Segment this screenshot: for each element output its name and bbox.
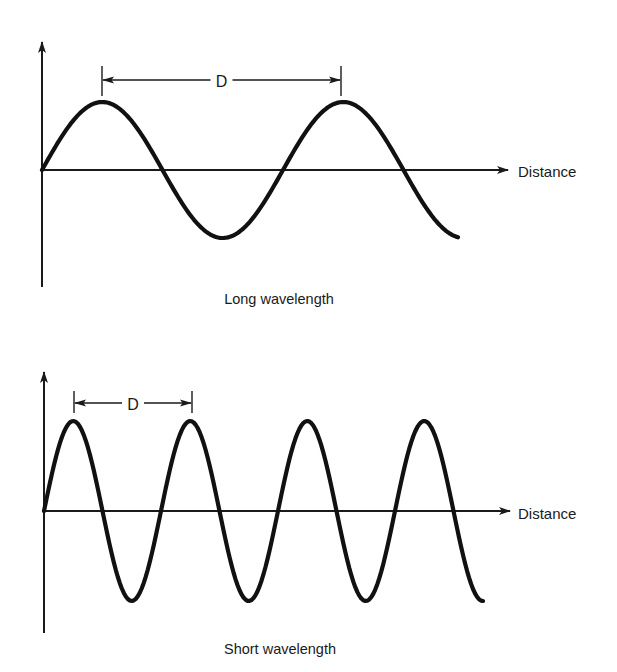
panel-caption: Short wavelength [224, 641, 336, 657]
panel-short-wavelength: D Distance Short wavelength [44, 372, 576, 657]
dimension-marker-d: D [102, 66, 341, 96]
dimension-label: D [216, 73, 228, 90]
x-axis-label: Distance [518, 163, 576, 180]
dimension-marker-d: D [74, 391, 192, 413]
panel-caption: Long wavelength [224, 291, 334, 307]
wavelength-diagram: D Distance Long wavelength D Distance Sh… [0, 0, 617, 672]
panel-long-wavelength: D Distance Long wavelength [42, 42, 576, 307]
x-axis-label: Distance [518, 505, 576, 522]
dimension-label: D [127, 396, 139, 413]
